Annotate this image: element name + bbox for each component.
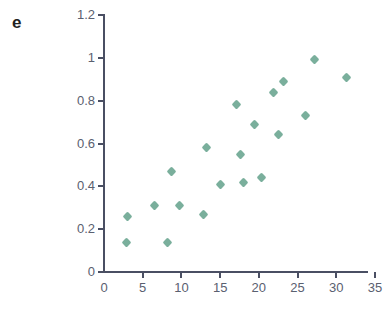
panel-letter-label: e [12, 14, 21, 31]
x-axis-tick [180, 272, 182, 278]
data-point [201, 143, 211, 153]
data-point [235, 149, 245, 159]
x-axis-tick [335, 272, 337, 278]
data-point [269, 87, 279, 97]
y-axis-tick-label: 0.2 [77, 222, 95, 235]
data-point [274, 130, 284, 140]
plot-data-area [104, 15, 372, 272]
y-axis-tick-label: 1 [88, 51, 95, 64]
x-axis-tick [142, 272, 144, 278]
data-point [279, 76, 289, 86]
y-axis-tick-label: 1.2 [77, 8, 95, 21]
data-point [310, 55, 320, 65]
data-point [257, 173, 267, 183]
data-point [166, 166, 176, 176]
data-point [174, 201, 184, 211]
x-axis-tick [374, 272, 376, 278]
x-axis-tick [297, 272, 299, 278]
x-axis-tick-label: 30 [316, 281, 356, 294]
x-axis-tick-label: 25 [278, 281, 318, 294]
data-point [122, 211, 132, 221]
data-point [149, 201, 159, 211]
data-point [231, 100, 241, 110]
x-axis-tick-label: 35 [355, 281, 387, 294]
data-point [238, 177, 248, 187]
data-point [249, 119, 259, 129]
data-point [163, 237, 173, 247]
y-axis-tick-label: 0.6 [77, 137, 95, 150]
x-axis-tick-label: 15 [200, 281, 240, 294]
y-axis-tick-label: 0.8 [77, 94, 95, 107]
data-point [341, 72, 351, 82]
x-axis-tick-label: 5 [123, 281, 163, 294]
data-point [300, 111, 310, 121]
x-axis-tick-label: 20 [239, 281, 279, 294]
data-point [122, 237, 132, 247]
x-axis-tick-label: 10 [161, 281, 201, 294]
y-axis-tick-label: 0 [88, 265, 95, 278]
x-axis-tick [219, 272, 221, 278]
data-point [216, 179, 226, 189]
data-point [198, 209, 208, 219]
y-axis-tick-label: 0.4 [77, 179, 95, 192]
x-axis-tick-label: 0 [84, 281, 124, 294]
x-axis-tick [258, 272, 260, 278]
